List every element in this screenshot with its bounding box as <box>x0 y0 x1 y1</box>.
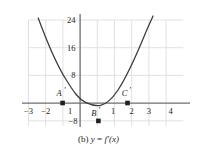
figure-caption: (b) y = f′(x) <box>0 133 197 146</box>
caption-lhs: y <box>91 134 95 144</box>
caption-equals: = <box>97 134 102 144</box>
point-marker-b[interactable] <box>96 119 101 124</box>
x-tick-label: −3 <box>24 106 33 116</box>
point-label-a-prime: ′ <box>64 85 66 95</box>
grid-lines <box>29 20 184 126</box>
figure-panel: A ′ B ′ C ′ −3 −2 1 1 2 3 4 24 16 8 −8 <box>0 0 197 156</box>
y-tick-label: −8 <box>68 116 77 126</box>
y-tick-label: 8 <box>71 70 75 80</box>
x-tick-label: 4 <box>168 106 173 116</box>
x-tick-label: −2 <box>41 106 50 116</box>
caption-index: (b) <box>78 134 89 144</box>
x-tick-label: 3 <box>147 106 151 116</box>
caption-argument: (x) <box>109 134 119 144</box>
point-label-b: B <box>91 108 96 118</box>
point-label-b-prime: ′ <box>98 105 100 115</box>
x-tick-label: 1 <box>68 106 72 116</box>
point-marker-a[interactable] <box>60 101 65 106</box>
point-label-c-prime: ′ <box>129 85 131 95</box>
point-label-a: A <box>55 88 62 98</box>
marked-points: A ′ B ′ C ′ <box>55 85 131 124</box>
point-label-c: C <box>122 88 128 98</box>
x-tick-label: 2 <box>130 106 134 116</box>
y-tick-label: 24 <box>67 15 76 25</box>
x-tick-label: 1 <box>111 106 115 116</box>
y-tick-label: 16 <box>67 43 76 53</box>
derivative-plot: A ′ B ′ C ′ −3 −2 1 1 2 3 4 24 16 8 −8 <box>0 0 197 134</box>
